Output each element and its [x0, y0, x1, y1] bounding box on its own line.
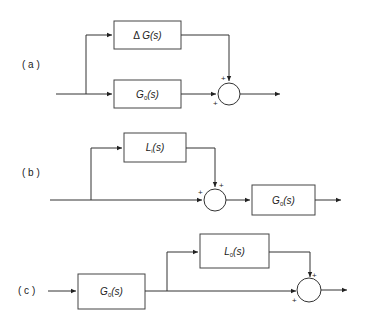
sign-top-b: +: [219, 181, 224, 190]
sign-top-a: +: [221, 74, 226, 83]
l-output-line: [186, 148, 215, 187]
diagram-label-b: ( b ): [22, 167, 40, 178]
block-g0-label: G0(s): [136, 89, 159, 101]
branch-line: [167, 252, 198, 291]
summing-junction-a: [218, 83, 240, 105]
diagram-label-a: ( a ): [22, 59, 40, 70]
summing-junction-b: [204, 189, 226, 211]
l0-output-line: [269, 252, 310, 277]
diagram-a: ( a ) Δ G(s) G0(s) + +: [22, 21, 280, 108]
sign-left-c: +: [292, 296, 297, 305]
block-g0-label: G0(s): [272, 195, 295, 207]
summing-junction-c: [297, 278, 321, 302]
block-g0-label: G0(s): [100, 286, 123, 298]
sign-left-b: +: [198, 188, 203, 197]
diagram-c: ( c ) G0(s) L0(s) + +: [18, 234, 347, 309]
sign-left-a: +: [213, 99, 218, 108]
branch-line: [91, 148, 122, 200]
branch-line: [86, 35, 112, 94]
block-l-label: Li(s): [146, 142, 165, 154]
diagram-b: ( b ) Li(s) + + G0(s): [22, 133, 341, 215]
diagram-label-c: ( c ): [18, 285, 35, 296]
block-l0-label: L0(s): [224, 246, 245, 258]
sign-top-c: +: [312, 271, 317, 280]
block-delta-g-label: Δ G(s): [133, 30, 161, 41]
block-diagrams: ( a ) Δ G(s) G0(s) + + ( b ) Li(s) + + G…: [0, 0, 368, 324]
